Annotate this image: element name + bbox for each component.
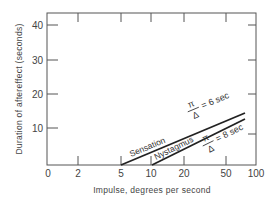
y-axis-title: Duration of aftereffect (seconds) [14, 23, 24, 154]
x-tick-label: 10 [145, 168, 157, 179]
delta-symbol: Δ [191, 109, 200, 121]
x-axis-title: Impulse, degrees per second [93, 185, 211, 195]
y-tick-label: 20 [32, 89, 44, 100]
y-tick-label: 30 [32, 55, 44, 66]
x-tick-label: 20 [178, 168, 190, 179]
y-tick-label: 40 [32, 20, 44, 31]
delta-symbol: Δ [206, 143, 216, 155]
x-tick-label: 50 [220, 168, 232, 179]
x-tick-label: 0 [45, 168, 51, 179]
x-tick-label: 2 [75, 168, 81, 179]
annotation-value: = 6 sec [200, 90, 231, 111]
chart: 40 30 20 10 0 2 5 10 20 50 100 Impulse, … [0, 0, 278, 200]
x-tick-label: 100 [248, 168, 265, 179]
pi-symbol: π [186, 98, 196, 110]
sensation-annotation: π Δ = 6 sec [184, 84, 234, 122]
y-axis-ticks [47, 25, 256, 134]
pi-symbol: π [200, 132, 210, 144]
x-tick-label: 5 [118, 168, 124, 179]
y-tick-label: 10 [32, 123, 44, 134]
